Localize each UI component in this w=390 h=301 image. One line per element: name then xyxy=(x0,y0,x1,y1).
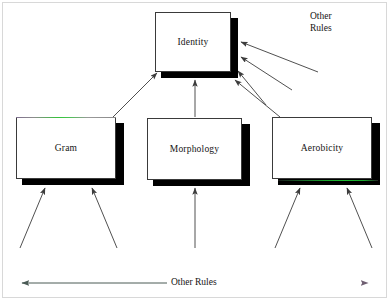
aerobicity-shadow-bottom xyxy=(278,179,380,185)
aerobicity-shadow-right xyxy=(372,123,380,185)
other-rules-corner-line1: Other xyxy=(310,10,332,22)
edge-other-rules-to-aerobicity-1 xyxy=(275,188,300,248)
node-identity[interactable]: Identity xyxy=(155,12,231,72)
edge-aerobicity-to-identity xyxy=(235,80,280,117)
edge-other-rules-to-gram-2 xyxy=(92,188,117,248)
identity-shadow-bottom xyxy=(161,72,238,78)
node-morphology-label: Morphology xyxy=(170,144,220,154)
other-rules-axis-label: Other Rules xyxy=(167,277,221,287)
edge-other-rules-to-gram-1 xyxy=(20,188,45,248)
edge-other-rules-to-identity-1 xyxy=(241,42,318,72)
morphology-shadow-bottom xyxy=(153,180,250,186)
node-gram-label: Gram xyxy=(55,143,77,153)
edge-gram-to-identity xyxy=(112,73,157,118)
diagram-canvas: Identity Gram Morphology Aerobicity Othe… xyxy=(0,0,390,301)
edge-other-rules-to-identity-2 xyxy=(241,57,292,90)
node-identity-label: Identity xyxy=(177,37,208,47)
gram-shadow-bottom xyxy=(22,179,124,185)
node-aerobicity-label: Aerobicity xyxy=(301,143,344,153)
node-gram[interactable]: Gram xyxy=(16,117,116,179)
gram-shadow-right xyxy=(116,123,124,185)
node-morphology[interactable]: Morphology xyxy=(147,118,242,180)
other-rules-corner-label: Other Rules xyxy=(310,10,332,34)
other-rules-corner-line2: Rules xyxy=(310,22,332,34)
morphology-shadow-right xyxy=(242,124,250,186)
node-aerobicity[interactable]: Aerobicity xyxy=(272,117,372,179)
edge-other-rules-to-aerobicity-2 xyxy=(347,188,372,248)
edge-other-rules-to-identity-3 xyxy=(238,71,266,105)
identity-shadow-right xyxy=(231,18,238,78)
